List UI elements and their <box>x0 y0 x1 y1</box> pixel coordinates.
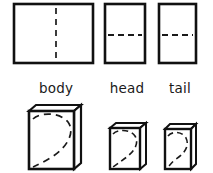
panel-tail-sheet <box>159 4 196 63</box>
label-head: head <box>110 80 145 96</box>
body-sheet-outline <box>14 4 93 63</box>
top-row-group <box>14 4 196 63</box>
body-folded-front-face <box>29 111 74 169</box>
panel-body-folded <box>29 105 81 169</box>
diagram-canvas: body head tail <box>0 0 213 173</box>
label-tail: tail <box>169 80 191 96</box>
head-sheet-outline <box>105 4 145 63</box>
bottom-row-group <box>29 105 196 169</box>
panel-tail-folded <box>165 124 196 169</box>
panel-body-sheet <box>14 4 93 63</box>
label-body: body <box>39 80 73 96</box>
head-folded-front-face <box>110 128 140 169</box>
panel-head-folded <box>110 123 146 169</box>
labels-group: body head tail <box>39 80 191 96</box>
folding-diagram: body head tail <box>0 0 213 173</box>
tail-sheet-outline <box>159 4 196 63</box>
panel-head-sheet <box>105 4 145 63</box>
